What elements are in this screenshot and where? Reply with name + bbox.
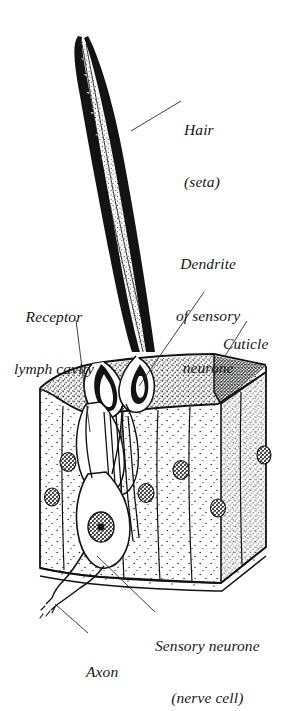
label-hair: Hair (seta) [184, 86, 220, 225]
label-hair-line2: (seta) [184, 173, 220, 190]
label-receptor-line2: lymph cavity [14, 360, 94, 377]
label-sensory-neurone: Sensory neurone (nerve cell) [155, 602, 260, 711]
label-sensory-line1: Sensory neurone [155, 637, 260, 654]
label-hair-line1: Hair [184, 121, 220, 138]
label-cuticle-line1: Cuticle [223, 335, 268, 352]
sensory-neurone-nucleus [88, 512, 114, 542]
label-axon-line1: Axon [86, 663, 118, 680]
label-receptor-line1: Receptor [14, 308, 94, 325]
label-sensory-line2: (nerve cell) [155, 689, 260, 706]
label-cuticle: Cuticle [223, 300, 268, 387]
label-receptor-lymph-cavity: Receptor lymph cavity [14, 273, 94, 412]
label-axon: Axon [86, 628, 118, 711]
label-dendrite-line1: Dendrite [176, 255, 240, 272]
